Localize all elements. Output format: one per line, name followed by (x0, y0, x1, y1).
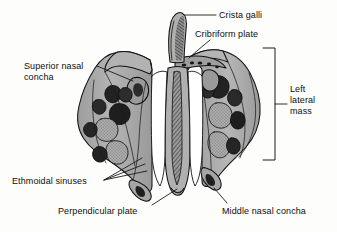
label-middle-nasal-concha: Middle nasal concha (222, 206, 306, 217)
label-ethmoidal-sinuses: Ethmoidal sinuses (12, 176, 87, 187)
label-left-lateral-mass: Left lateral mass (290, 84, 315, 117)
label-perpendicular-plate: Perpendicular plate (58, 206, 137, 217)
ethmoid-bone-diagram (0, 0, 337, 232)
superior-nasal-concha-right (201, 70, 219, 91)
perpendicular-plate-core (172, 71, 182, 185)
label-crista-galli: Crista galli (219, 10, 262, 21)
label-cribriform-plate: Cribriform plate (195, 29, 258, 40)
label-superior-nasal-concha: Superior nasal concha (24, 61, 83, 83)
